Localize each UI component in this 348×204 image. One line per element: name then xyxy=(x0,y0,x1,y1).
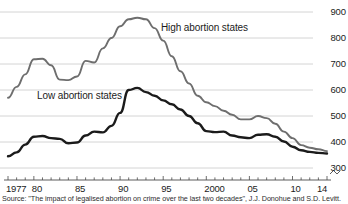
x-axis-group xyxy=(4,176,331,180)
y-axis-tick-label: 700 xyxy=(330,59,346,69)
y-axis-tick-label: 500 xyxy=(330,111,346,121)
x-axis-tick-label: 14 xyxy=(317,184,327,194)
y-axis-tick-label: 800 xyxy=(330,33,346,43)
series-label-low-abortion-states: Low abortion states xyxy=(37,90,122,101)
x-axis-tick-label: 90 xyxy=(118,184,128,194)
x-axis-tick-label: 2000 xyxy=(204,184,224,194)
y-axis-tick-label: 600 xyxy=(330,85,346,95)
x-axis-tick-label: 80 xyxy=(32,184,42,194)
x-axis-tick-label: 05 xyxy=(247,184,257,194)
x-axis-tick-label: 95 xyxy=(161,184,171,194)
chart-container: 900800700600500400300 197780859095200005… xyxy=(0,0,348,204)
x-axis-tick-label: 10 xyxy=(291,184,301,194)
y-axis-tick-label: 900 xyxy=(330,7,346,17)
source-note: Source: "The impact of legalised abortio… xyxy=(2,194,341,203)
series-paths-group xyxy=(8,18,327,157)
series-label-high-abortion-states: High abortion states xyxy=(161,22,248,33)
y-axis-tick-label: 400 xyxy=(330,137,346,147)
y-axis-tick-label: 300 xyxy=(330,163,346,173)
x-axis-tick-label: 1977 xyxy=(6,184,26,194)
x-axis-tick-label: 85 xyxy=(75,184,85,194)
